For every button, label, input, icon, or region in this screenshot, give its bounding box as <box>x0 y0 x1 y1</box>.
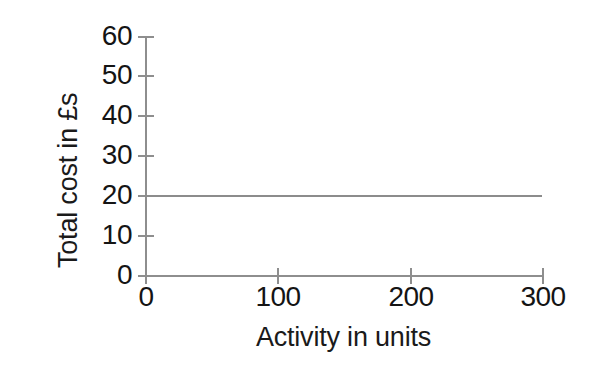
x-tick-label-100: 100 <box>233 283 323 311</box>
y-tick-label-30-wrap: 30 <box>72 141 132 169</box>
y-tick-label-20-wrap: 20 <box>72 181 132 209</box>
y-tick-label-40: 40 <box>72 101 132 129</box>
x-axis-line <box>145 275 543 277</box>
y-tick-label-50: 50 <box>72 61 132 89</box>
y-tick-50 <box>138 75 154 77</box>
y-tick-label-30: 30 <box>72 141 132 169</box>
y-tick-10 <box>138 235 154 237</box>
x-axis-title: Activity in units <box>145 322 542 353</box>
y-tick-label-40-wrap: 40 <box>72 101 132 129</box>
y-tick-label-50-wrap: 50 <box>72 61 132 89</box>
y-tick-label-60: 60 <box>72 22 132 50</box>
y-tick-label-10: 10 <box>72 221 132 249</box>
x-tick-label-300: 300 <box>498 283 588 311</box>
y-tick-40 <box>138 115 154 117</box>
y-tick-60 <box>138 36 154 38</box>
x-tick-label-200: 200 <box>366 283 456 311</box>
x-tick-label-0: 0 <box>101 283 191 311</box>
fixed-cost-chart: Total cost in £s Activity in units 0 10 … <box>0 0 601 366</box>
y-tick-label-10-wrap: 10 <box>72 221 132 249</box>
y-tick-label-20: 20 <box>72 181 132 209</box>
y-tick-30 <box>138 155 154 157</box>
y-tick-label-60-wrap: 60 <box>72 22 132 50</box>
data-line-total-cost <box>145 195 542 197</box>
